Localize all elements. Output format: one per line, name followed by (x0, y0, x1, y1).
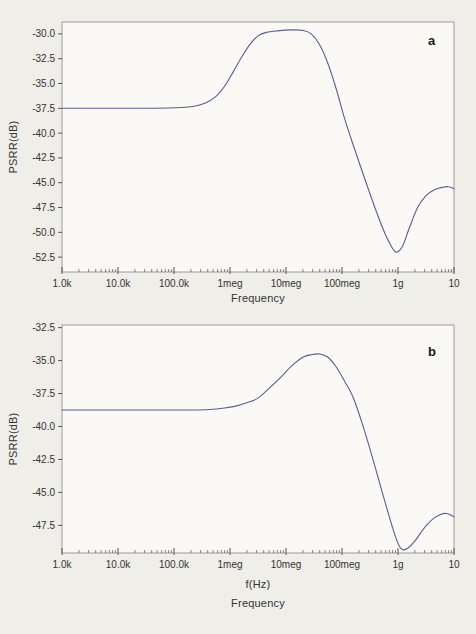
y-tick-label: -37.5 (32, 388, 55, 399)
x-tick-label: 100meg (324, 278, 360, 289)
x-tick-label: 100meg (324, 559, 360, 570)
y-tick-label: -47.5 (32, 202, 55, 213)
y-tick-label: -42.5 (32, 152, 55, 163)
y-axis-title-a: PSRR(dB) (7, 121, 19, 174)
scanned-figure-page: 1.0k10.0k100.0k1meg10meg100meg1g10-30.0-… (0, 0, 476, 634)
x-tick-label: 10 (448, 278, 460, 289)
x-tick-label: 1.0k (53, 278, 73, 289)
x-tick-label: 10 (448, 559, 460, 570)
x-tick-label: 1g (392, 278, 403, 289)
y-tick-label: -32.5 (32, 53, 55, 64)
y-tick-label: -45.0 (32, 177, 55, 188)
chart-a-plot: 1.0k10.0k100.0k1meg10meg100meg1g10-30.0-… (0, 0, 476, 317)
y-tick-label: -40.0 (32, 421, 55, 432)
plot-frame (62, 22, 454, 272)
y-tick-label: -50.0 (32, 227, 55, 238)
x-tick-label: 10.0k (106, 559, 131, 570)
x-axis-title-a: Frequency (62, 292, 454, 304)
x-tick-label: 1meg (217, 559, 242, 570)
y-tick-label: -52.5 (32, 252, 55, 263)
y-tick-label: -35.0 (32, 355, 55, 366)
panel-a: 1.0k10.0k100.0k1meg10meg100meg1g10-30.0-… (0, 0, 476, 317)
y-axis-title-b: PSRR(dB) (7, 413, 19, 466)
x-tick-label: 1meg (217, 278, 242, 289)
x-tick-label: 10meg (271, 278, 302, 289)
x-tick-label: 1.0k (53, 559, 73, 570)
y-tick-label: -45.0 (32, 487, 55, 498)
y-tick-label: -35.0 (32, 78, 55, 89)
y-tick-label: -32.5 (32, 322, 55, 333)
y-tick-label: -42.5 (32, 454, 55, 465)
x-tick-label: 1g (392, 559, 403, 570)
x-tick-label: 10.0k (106, 278, 131, 289)
x-axis-subtitle-b: Frequency (62, 597, 454, 609)
panel-b: 1.0k10.0k100.0k1meg10meg100meg1g10-32.5-… (0, 317, 476, 634)
plot-frame (62, 325, 454, 553)
panel-label-b: b (428, 344, 436, 359)
x-axis-title-b: f(Hz) (62, 578, 454, 590)
y-tick-label: -37.5 (32, 103, 55, 114)
y-tick-label: -40.0 (32, 128, 55, 139)
panel-label-a: a (428, 33, 435, 48)
x-tick-label: 100.0k (159, 559, 190, 570)
y-tick-label: -30.0 (32, 28, 55, 39)
x-tick-label: 100.0k (159, 278, 190, 289)
y-tick-label: -47.5 (32, 520, 55, 531)
x-tick-label: 10meg (271, 559, 302, 570)
